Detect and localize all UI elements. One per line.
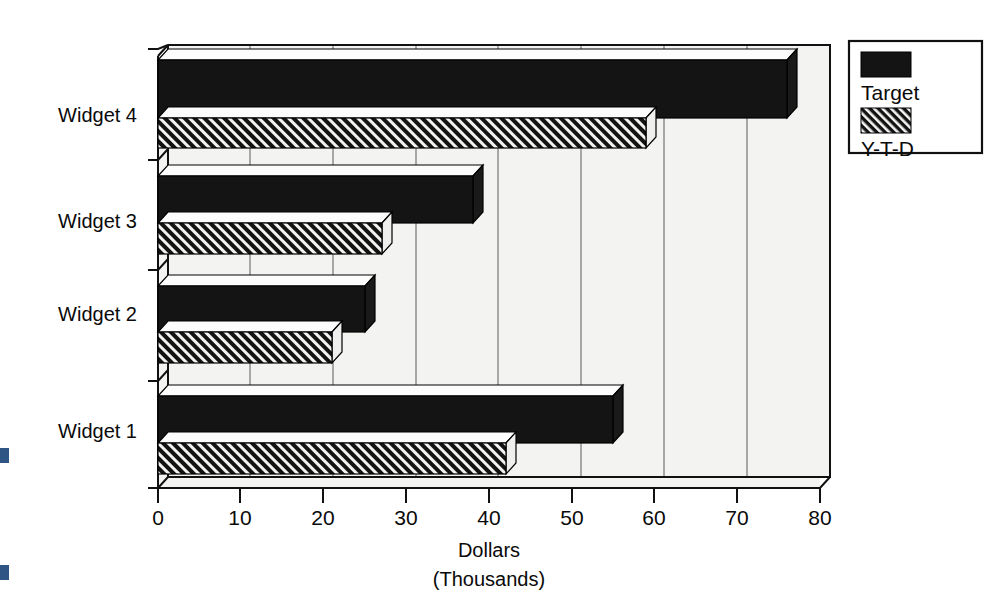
bar-widget-2-ytd[interactable] (158, 321, 342, 363)
category-label-widget-3: Widget 3 (58, 210, 137, 232)
x-axis-title-units: (Thousands) (433, 568, 545, 590)
bar-chart: 0 10 20 30 40 50 60 70 80 Dollars (Thous… (0, 0, 992, 599)
category-labels: Widget 4 Widget 3 Widget 2 Widget 1 (58, 104, 137, 442)
category-label-widget-2: Widget 2 (58, 303, 137, 325)
edge-mark-upper (0, 448, 9, 463)
chart-container: 0 10 20 30 40 50 60 70 80 Dollars (Thous… (0, 0, 992, 599)
x-tick-label-0: 0 (152, 506, 164, 529)
x-tick-label-10: 10 (228, 506, 251, 529)
x-tick-label-70: 70 (725, 506, 748, 529)
x-tick-label-60: 60 (642, 506, 665, 529)
bar-widget-1-ytd[interactable] (158, 432, 516, 474)
edge-mark-lower (0, 565, 9, 580)
x-tick-label-80: 80 (808, 506, 831, 529)
legend-label-target: Target (861, 81, 920, 104)
bar-widget-3-ytd[interactable] (158, 212, 392, 254)
x-tick-label-30: 30 (394, 506, 417, 529)
page-edge-marks (0, 448, 9, 580)
x-axis-ticks (158, 488, 820, 503)
x-tick-label-50: 50 (560, 506, 583, 529)
category-label-widget-1: Widget 1 (58, 420, 137, 442)
x-axis-title-main: Dollars (458, 539, 520, 561)
bar-widget-4-ytd[interactable] (158, 107, 656, 148)
legend-label-ytd: Y-T-D (861, 137, 914, 160)
x-tick-label-20: 20 (311, 506, 334, 529)
x-tick-label-40: 40 (477, 506, 500, 529)
bar-group-widget-2[interactable] (158, 275, 375, 363)
category-label-widget-4: Widget 4 (58, 104, 137, 126)
x-axis-tick-labels: 0 10 20 30 40 50 60 70 80 (152, 506, 832, 529)
legend[interactable]: Target Y-T-D (849, 41, 982, 160)
x-axis-title: Dollars (Thousands) (433, 539, 545, 590)
legend-swatch-target-icon (861, 52, 911, 77)
legend-swatch-ytd-icon (861, 108, 911, 133)
